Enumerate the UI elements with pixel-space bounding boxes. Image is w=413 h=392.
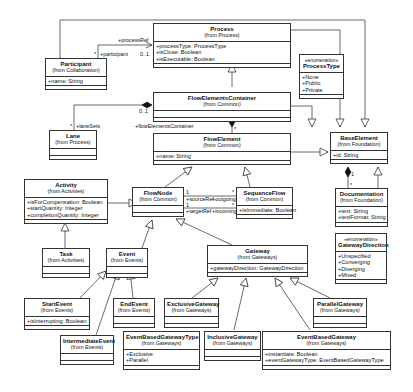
role-incoming: +incoming [212, 208, 237, 214]
class-flow-element[interactable]: FlowElement(from Common) +name: String [153, 133, 291, 165]
operations-compartment [124, 366, 199, 369]
operations-compartment [50, 156, 96, 159]
attributes-compartment [165, 317, 218, 324]
enum-gateway-direction[interactable]: «enumeration»GatewayDirection +Unspecifi… [335, 233, 387, 284]
attribute: +eventGatewayType: EventBasedGatewayType [265, 357, 388, 363]
class-package: (from Common) [135, 196, 181, 202]
attribute: +completionQuantity: Integer [27, 212, 105, 218]
attributes-compartment [205, 350, 260, 357]
class-package: (from Process) [52, 139, 94, 145]
attribute: +isImmediate: Boolean [239, 207, 290, 213]
class-package: (from Common) [239, 196, 290, 202]
operations-compartment [154, 64, 290, 67]
class-package: (from Events) [27, 307, 87, 313]
multiplicity: * [94, 51, 96, 57]
attributes-compartment [107, 267, 147, 274]
operations-compartment [336, 223, 387, 226]
class-documentation[interactable]: Documentation(from Foundation) +text: St… [335, 188, 388, 227]
attributes-compartment [154, 111, 290, 118]
class-package: (from Activities) [27, 188, 105, 194]
multiplicity: 1 [186, 202, 189, 208]
class-package: (from Activities) [45, 257, 87, 263]
class-lane[interactable]: Lane(from Process) [49, 130, 97, 160]
multiplicity: 0..1 [140, 51, 149, 57]
class-package: (from Events) [63, 344, 111, 350]
operations-compartment [43, 274, 89, 277]
class-event-based-gateway[interactable]: EventBasedGateway(from Gateways) +instan… [262, 331, 391, 370]
class-task[interactable]: Task(from Activities) [42, 248, 90, 278]
attributes-compartment [50, 149, 96, 156]
enum-literal: +Private [302, 87, 341, 93]
class-parallel-gateway[interactable]: ParallelGateway(from Gateways) [313, 298, 367, 328]
operations-compartment [133, 213, 183, 216]
operations-compartment [114, 324, 154, 327]
operations-compartment [237, 215, 292, 218]
class-package: (from Gateways) [316, 307, 364, 313]
class-inclusive-gateway[interactable]: InclusiveGateway(from Gateways) [204, 331, 261, 361]
multiplicity: 0..1 [139, 108, 148, 114]
class-package: (from Foundation) [338, 197, 385, 203]
class-package: (from Gateways) [167, 307, 216, 313]
attribute: +gatewayDirection: GatewayDirection [210, 265, 305, 271]
operations-compartment [61, 361, 113, 364]
class-end-event[interactable]: EndEvent(from Events) [113, 298, 155, 328]
attribute: +name: String [156, 153, 288, 159]
attributes-compartment [133, 206, 183, 213]
role-source-ref: +sourceRef [186, 196, 214, 202]
class-package: (from Gateways) [207, 340, 258, 346]
operations-compartment [46, 86, 106, 89]
class-exclusive-gateway[interactable]: ExclusiveGateway(from Gateways) [164, 298, 219, 328]
attributes-compartment [114, 317, 154, 324]
class-name: GatewayDirection [338, 242, 384, 248]
class-process[interactable]: Process(from Process) +processType: Proc… [153, 23, 291, 68]
role-flow-elements-container: +flowElementsContainer [135, 123, 194, 129]
class-package: (from Common) [156, 101, 288, 107]
multiplicity: 1 [351, 171, 354, 177]
class-participant[interactable]: Participant(from Collaboration) +name: S… [45, 58, 107, 90]
class-event-based-gateway-type[interactable]: EventBasedGatewayType(from Gateways) +Ex… [123, 331, 200, 370]
attribute: +isExecutable: Boolean [156, 56, 288, 62]
attribute: +isInterrupting: Boolean [27, 318, 87, 324]
multiplicity: * [350, 182, 352, 188]
class-package: (from Events) [116, 307, 152, 313]
operations-compartment [154, 161, 290, 164]
class-package: (from Gateways) [210, 254, 305, 260]
class-package: (from Gateways) [265, 340, 388, 346]
operations-compartment [25, 326, 89, 329]
class-flow-elements-container[interactable]: FlowElementsContainer(from Common) [153, 92, 291, 122]
attribute: +name: String [48, 78, 104, 84]
multiplicity: * [232, 189, 234, 195]
operations-compartment [331, 160, 387, 163]
class-flow-node[interactable]: FlowNode(from Common) [132, 187, 184, 217]
class-sequence-flow[interactable]: SequenceFlow(from Common) +isImmediate: … [236, 187, 293, 219]
operations-compartment [300, 95, 343, 98]
operations-compartment [165, 324, 218, 327]
multiplicity: * [232, 202, 234, 208]
class-gateway[interactable]: Gateway(from Gateways) +gatewayDirection… [207, 245, 308, 277]
class-package: (from Gateways) [126, 340, 197, 346]
enum-literal: +Mixed [338, 272, 384, 278]
multiplicity: * [234, 126, 236, 132]
class-name: ProcessType [302, 63, 341, 69]
class-package: (from Collaboration) [48, 67, 104, 73]
attributes-compartment [314, 317, 366, 324]
role-process-ref: +processRef [118, 37, 148, 43]
attribute: +textFormat: String [338, 214, 385, 220]
class-start-event[interactable]: StartEvent(from Events) +isInterrupting:… [24, 298, 90, 330]
role-participant: +participant [100, 51, 128, 57]
operations-compartment [25, 220, 107, 223]
class-package: (from Foundation) [333, 141, 385, 147]
class-base-element[interactable]: BaseElement(from Foundation) +id: String [330, 132, 388, 164]
role-lane-sets: +laneSets [76, 123, 100, 129]
enum-process-type[interactable]: «enumeration»ProcessType +None +Public +… [299, 54, 344, 99]
class-event[interactable]: Event(from Events) [106, 248, 148, 278]
operations-compartment [208, 273, 307, 276]
class-activity[interactable]: Activity(from Activities) +isForCompensa… [24, 179, 108, 224]
attribute: +Parallel [126, 357, 197, 363]
attributes-compartment [61, 354, 113, 361]
class-intermediate-event[interactable]: IntermediateEvent(from Events) [60, 335, 114, 365]
class-package: (from Common) [156, 142, 288, 148]
attributes-compartment [43, 267, 89, 274]
operations-compartment [314, 324, 366, 327]
operations-compartment [336, 280, 386, 283]
